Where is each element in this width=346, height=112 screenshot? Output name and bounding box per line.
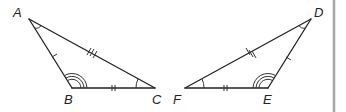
angle-arc-c <box>136 79 138 88</box>
triangle-abc <box>29 19 155 91</box>
vertex-label-a: A <box>12 5 22 20</box>
angle-arc-e <box>253 73 276 88</box>
angle-arc-b <box>65 73 88 88</box>
angle-arc-f <box>202 79 204 88</box>
side-ab <box>29 19 72 88</box>
angle-arc-a <box>35 26 42 29</box>
diagram-canvas: A B C D E F <box>0 0 346 112</box>
vertex-label-c: C <box>152 92 162 107</box>
vertex-label-e: E <box>263 92 272 107</box>
vertex-label-d: D <box>314 5 323 20</box>
tick-marks-ab <box>52 54 57 57</box>
side-de <box>268 19 311 88</box>
triangle-def <box>185 19 311 91</box>
vertex-label-f: F <box>173 92 182 107</box>
tick-marks-ac <box>87 48 97 58</box>
angle-arc-d <box>299 26 306 29</box>
side-df <box>185 19 311 88</box>
congruent-triangles-figure: A B C D E F <box>0 0 346 112</box>
vertex-label-b: B <box>64 92 73 107</box>
